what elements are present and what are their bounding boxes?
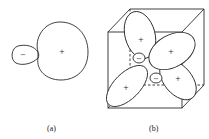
panel-a-plus-sign: + <box>59 48 65 56</box>
panel-b-orbitals <box>99 8 203 114</box>
panel-b-caption: (b) <box>149 124 158 133</box>
lobe-lower-left-sign: + <box>123 84 129 92</box>
lobe-lower-right-sign: + <box>175 75 181 83</box>
lobe-upper-right-sign: + <box>168 48 174 56</box>
panel-a-caption: (a) <box>47 124 56 133</box>
lobe-center-upper-sign: − <box>136 55 142 63</box>
lobe-upper-left-sign: + <box>138 36 144 44</box>
lobe-center-lower-sign: − <box>153 75 159 83</box>
panel-a-minus-sign: − <box>20 51 26 59</box>
figure-canvas: + − + + + + − − <box>0 0 209 139</box>
